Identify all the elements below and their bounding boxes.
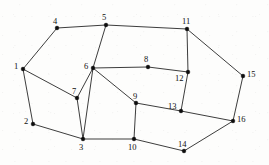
vertex-label-10: 10 — [128, 143, 137, 152]
graph-vertex-11[interactable] — [185, 27, 189, 31]
vertex-label-6: 6 — [84, 62, 88, 71]
graph-vertex-5[interactable] — [104, 23, 108, 27]
vertex-label-8: 8 — [144, 55, 148, 64]
graph-vertex-4[interactable] — [55, 26, 59, 30]
graph-vertex-3[interactable] — [81, 137, 85, 141]
vertex-label-7: 7 — [72, 87, 76, 96]
graph-edge — [83, 68, 93, 139]
graph-vertex-12[interactable] — [186, 70, 190, 74]
vertex-label-1: 1 — [14, 62, 18, 71]
graph-vertex-9[interactable] — [134, 101, 138, 105]
graph-vertex-15[interactable] — [241, 74, 245, 78]
vertices-group — [21, 23, 245, 153]
graph-edge — [187, 29, 243, 76]
graph-vertex-16[interactable] — [231, 119, 235, 123]
graph-edge — [23, 69, 77, 98]
graph-vertex-1[interactable] — [21, 67, 25, 71]
vertex-label-12: 12 — [175, 74, 184, 83]
graph-vertex-13[interactable] — [179, 109, 183, 113]
graph-edge — [33, 124, 83, 139]
graph-edge — [134, 103, 136, 139]
graph-edge — [148, 67, 188, 72]
graph-edge — [93, 67, 148, 68]
graph-edge — [184, 121, 233, 151]
edges-group — [23, 25, 243, 151]
graph-edge — [23, 28, 57, 69]
graph-edge — [134, 139, 184, 151]
vertex-label-13: 13 — [168, 102, 177, 111]
graph-canvas — [0, 0, 269, 165]
graph-edge — [77, 98, 83, 139]
vertex-label-9: 9 — [133, 92, 137, 101]
vertex-label-4: 4 — [53, 17, 57, 26]
vertex-label-16: 16 — [237, 115, 246, 124]
vertex-label-15: 15 — [247, 70, 256, 79]
graph-edge — [93, 68, 136, 103]
graph-diagram: 12345678910111213141516 — [0, 0, 269, 165]
vertex-label-3: 3 — [79, 143, 83, 152]
graph-vertex-7[interactable] — [75, 96, 79, 100]
vertex-label-14: 14 — [178, 140, 187, 149]
graph-edge — [181, 111, 233, 121]
graph-vertex-6[interactable] — [91, 66, 95, 70]
vertex-label-11: 11 — [182, 17, 190, 26]
vertex-label-2: 2 — [24, 117, 28, 126]
graph-vertex-10[interactable] — [132, 137, 136, 141]
vertex-label-5: 5 — [102, 13, 106, 22]
graph-edge — [106, 25, 187, 29]
graph-edge — [57, 25, 106, 28]
graph-vertex-14[interactable] — [182, 149, 186, 153]
graph-vertex-8[interactable] — [146, 65, 150, 69]
graph-vertex-2[interactable] — [31, 122, 35, 126]
graph-edge — [187, 29, 188, 72]
graph-edge — [93, 25, 106, 68]
